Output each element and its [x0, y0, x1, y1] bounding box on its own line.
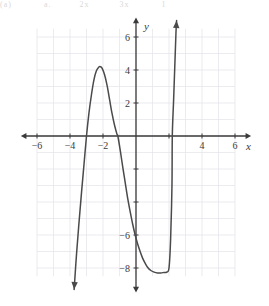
header-fragment-1: a.	[44, 0, 52, 9]
y-axis-arrow-down	[133, 287, 139, 293]
x-axis-label: x	[245, 140, 251, 152]
x-tick-label: 6	[233, 140, 238, 151]
x-axis-arrow-left	[21, 133, 27, 139]
curve-arrow-left-down	[71, 282, 77, 290]
header-fragment-4: 1	[161, 0, 166, 9]
x-tick-label: −4	[65, 140, 76, 151]
coordinate-plane: −6−4−246−8−6246 x y	[0, 0, 269, 306]
header-fragment-3: 3x	[119, 0, 129, 9]
x-axis-arrow-right	[246, 133, 252, 139]
header-fragment-2: 2x	[79, 0, 89, 9]
x-tick-label: 4	[200, 140, 205, 151]
curve-arrow-right-up	[173, 21, 179, 29]
cropped-header-text: (a) a. 2x 3x 1	[0, 0, 269, 12]
y-tick-label: 2	[125, 98, 130, 109]
y-tick-label: 6	[125, 32, 130, 43]
figure-container: (a) a. 2x 3x 1 −6−4−246−8−6246 x y	[0, 0, 269, 306]
header-fragment-0: (a)	[0, 0, 12, 9]
y-tick-label: −8	[119, 263, 130, 274]
x-tick-label: −2	[98, 140, 109, 151]
y-tick-label: 4	[125, 65, 130, 76]
y-tick-label: −6	[119, 230, 130, 241]
curve-layer	[71, 21, 179, 290]
y-axis-label: y	[143, 20, 149, 32]
y-axis-arrow-up	[133, 18, 139, 24]
x-tick-label: −6	[32, 140, 43, 151]
function-curve	[74, 21, 176, 290]
